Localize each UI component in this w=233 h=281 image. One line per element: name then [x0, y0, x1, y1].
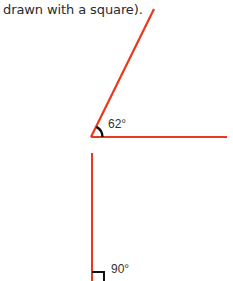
angle-arc-icon [96, 127, 102, 137]
right-angle-square-icon [92, 272, 104, 281]
acute-angle-figure: 62° [91, 9, 227, 137]
angle-label-62: 62° [108, 117, 126, 131]
angle-figures: 62° 90° [0, 0, 233, 281]
right-angle-figure: 90° [92, 153, 129, 281]
angle-label-90: 90° [111, 262, 129, 276]
